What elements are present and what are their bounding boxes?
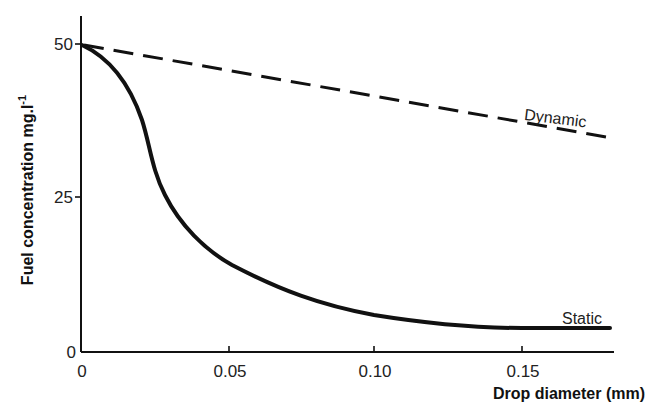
y-tick-label-25: 25 [54, 188, 73, 207]
y-axis-title-superscript: -1 [16, 95, 28, 105]
series-static-line [82, 45, 610, 328]
y-axis-title-main: Fuel concentration mg.l [19, 105, 36, 285]
y-tick-label-50: 50 [54, 35, 73, 54]
x-tick-label-0.10: 0.10 [358, 362, 391, 381]
y-tick-label-0: 0 [67, 343, 76, 362]
x-axis-title: Drop diameter (mm) [493, 385, 645, 402]
x-tick-label-0.05: 0.05 [213, 362, 246, 381]
series-dynamic-label: Dynamic [523, 106, 587, 130]
series-static-label: Static [562, 310, 602, 327]
chart: 50 25 0 0 0.05 0.10 0.15 Drop diameter (… [0, 0, 648, 417]
x-tick-label-0.15: 0.15 [506, 362, 539, 381]
y-axis-title: Fuel concentration mg.l-1 [16, 95, 36, 285]
series-dynamic-line [84, 45, 612, 138]
x-tick-label-0: 0 [77, 362, 86, 381]
